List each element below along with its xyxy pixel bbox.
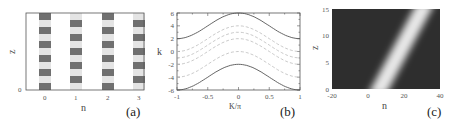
x-tick-b: -1 (174, 93, 180, 101)
x-axis-label-a: n (81, 102, 86, 113)
stripe-block (102, 13, 114, 20)
panel-a: 0123 0 z n (a) (6, 13, 145, 119)
stripe-block (102, 83, 114, 90)
x-tick-b: 0.5 (265, 93, 274, 101)
stripe-block (39, 48, 51, 55)
y-tick-b: 0 (171, 48, 175, 56)
stripe-block (133, 13, 145, 20)
stripe-block (70, 27, 82, 34)
stripe-block (39, 20, 51, 27)
y-axis-label-c: z (309, 45, 320, 50)
stripe-block (133, 41, 145, 48)
x-tick-a: 2 (106, 94, 110, 102)
stripe-block (133, 69, 145, 76)
stripe-block (133, 27, 145, 34)
panel-label-c: (c) (427, 104, 441, 119)
y-axis-label-b: k (157, 46, 162, 57)
stripe-block (133, 62, 145, 69)
y-tick-labels-c: 051015 (322, 6, 330, 94)
y-tick-b: -2 (168, 61, 174, 69)
x-tick-labels-c: -2002040 (327, 92, 444, 100)
figure: 0123 0 z n (a) 6420-2-4-6 -1-0.500.51 k … (0, 0, 453, 123)
x-tick-c: 20 (401, 92, 409, 100)
stripe-block (102, 27, 114, 34)
x-tick-a: 1 (74, 94, 78, 102)
y-tick-c: 15 (322, 6, 330, 14)
x-tick-b: 0 (237, 93, 241, 101)
stripe-block (102, 62, 114, 69)
stripe-block (39, 55, 51, 62)
y-tick-c: 10 (322, 32, 330, 40)
x-tick-b: 1 (298, 93, 302, 101)
y-axis-label-a: z (6, 49, 17, 54)
stripe-block (133, 34, 145, 41)
stripe-block (70, 20, 82, 27)
x-tick-a: 0 (43, 94, 47, 102)
stripe-block (70, 83, 82, 90)
stripe-block (70, 48, 82, 55)
y-tick-b: 2 (171, 35, 175, 43)
stripe-block (70, 62, 82, 69)
y-tick-labels-b: 6420-2-4-6 (168, 10, 174, 95)
y-tick-b: -4 (168, 74, 174, 82)
stripe-block (102, 76, 114, 83)
x-tick-c: -20 (327, 92, 337, 100)
stripe-block (39, 69, 51, 76)
stripe-block (102, 34, 114, 41)
stripe-block (39, 62, 51, 69)
y-tick-b: 4 (171, 22, 175, 30)
y-tick-a-0: 0 (18, 86, 22, 94)
stripe-block (39, 83, 51, 90)
x-tick-labels-a: 0123 (43, 94, 141, 102)
x-tick-c: 0 (366, 92, 370, 100)
panel-label-a: (a) (126, 104, 140, 119)
stripe-block (102, 69, 114, 76)
stripe-block (39, 76, 51, 83)
x-axis-label-c: n (382, 100, 387, 111)
y-tick-b: 6 (171, 10, 175, 18)
stripe-block (133, 48, 145, 55)
stripe-block (133, 55, 145, 62)
stripe-block (102, 20, 114, 27)
stripe-block (70, 41, 82, 48)
stripe-block (102, 41, 114, 48)
stripe-block (70, 76, 82, 83)
stripe-block (70, 55, 82, 62)
stripe-block (39, 27, 51, 34)
x-tick-c: 40 (437, 92, 445, 100)
stripe-block (70, 13, 82, 20)
stripe-block (133, 83, 145, 90)
stripe-block (39, 13, 51, 20)
stripe-block (102, 48, 114, 55)
stripe-block (102, 55, 114, 62)
panel-label-b: (b) (280, 104, 295, 119)
x-tick-labels-b: -1-0.500.51 (174, 93, 302, 101)
panel-b: 6420-2-4-6 -1-0.500.51 k K/π (b) (157, 10, 302, 120)
y-tick-c: 5 (326, 59, 330, 67)
x-tick-b: -0.5 (202, 93, 214, 101)
stripe-block (70, 34, 82, 41)
stripe-block (70, 69, 82, 76)
stripe-block (133, 76, 145, 83)
stripe-block (39, 41, 51, 48)
stripe-block (133, 20, 145, 27)
x-axis-label-b: K/π (229, 102, 241, 111)
stripe-grid (39, 13, 145, 90)
x-tick-a: 3 (137, 94, 141, 102)
stripe-block (39, 34, 51, 41)
panel-c: 051015 -2002040 z n (c) (309, 4, 444, 119)
